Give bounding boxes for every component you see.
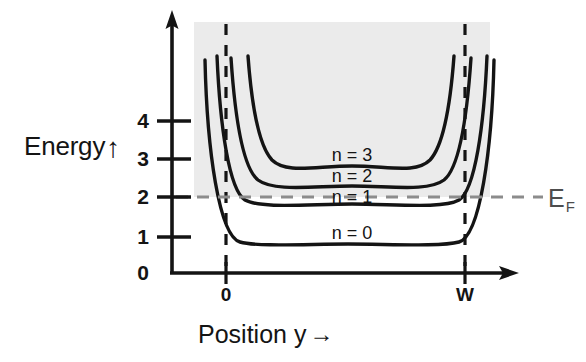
y-tick-label-4: 4 xyxy=(123,110,149,131)
fermi-level-label: EF xyxy=(548,186,574,211)
y-axis-title: Energy↑ xyxy=(24,132,119,160)
y-tick-label-0: 0 xyxy=(123,262,149,283)
y-tick-label-1: 1 xyxy=(123,226,149,247)
y-tick-label-3: 3 xyxy=(123,148,149,169)
x-axis-title-text: Position y xyxy=(198,320,306,348)
y-tick-label-2: 2 xyxy=(123,186,149,207)
x-axis-right-arrow-icon: → xyxy=(309,320,333,347)
curve-label-n1: n = 1 xyxy=(317,188,387,206)
x-tick-label-w: W xyxy=(448,285,482,304)
fermi-label-subscript: F xyxy=(566,198,575,215)
fermi-label-main: E xyxy=(548,184,565,212)
quantum-well-diagram: 4 3 2 1 0 0 W Energy↑ Position y→ n = 3 … xyxy=(0,0,586,362)
curve-label-n2: n = 2 xyxy=(317,167,387,185)
y-axis-title-text: Energy xyxy=(24,131,105,161)
x-axis-title: Position y→ xyxy=(198,322,330,347)
curve-label-n3: n = 3 xyxy=(317,146,387,164)
x-tick-label-0: 0 xyxy=(209,285,243,304)
curve-label-n0: n = 0 xyxy=(317,224,387,242)
diagram-canvas xyxy=(0,0,586,362)
y-axis-up-arrow-icon: ↑ xyxy=(106,132,120,163)
